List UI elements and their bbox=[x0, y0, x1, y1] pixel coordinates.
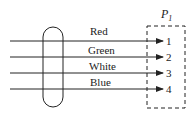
connector-label: P1 bbox=[160, 7, 172, 23]
pin-3: 3 bbox=[166, 67, 172, 79]
wire-label-green: Green bbox=[88, 44, 115, 56]
pin-4: 4 bbox=[166, 83, 172, 95]
wire-blue: Blue 4 bbox=[10, 76, 172, 95]
wiring-diagram: P1 Red 1 Green 2 White 3 Blue 4 bbox=[0, 0, 195, 115]
wire-label-white: White bbox=[89, 60, 116, 72]
pin-1: 1 bbox=[166, 35, 172, 47]
cable-bundle-oval bbox=[43, 27, 63, 107]
wire-label-red: Red bbox=[90, 25, 108, 37]
pin-2: 2 bbox=[166, 51, 172, 63]
wire-label-blue: Blue bbox=[90, 76, 111, 88]
